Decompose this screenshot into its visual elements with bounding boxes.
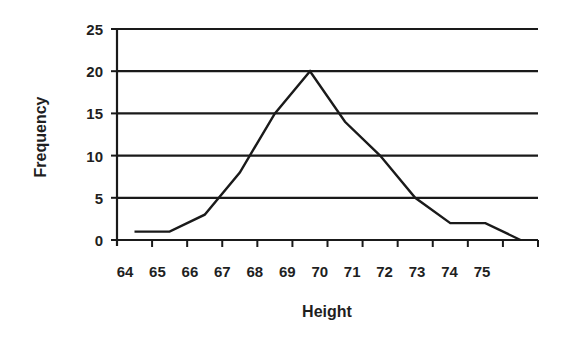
y-axis-title: Frequency: [32, 96, 49, 177]
horizontal-gridlines: [117, 29, 538, 198]
x-axis: 646566676869707172737475: [111, 240, 538, 280]
y-tick-label: 0: [95, 232, 103, 249]
x-tick-label: 70: [311, 263, 328, 280]
x-tick-label: 66: [182, 263, 199, 280]
x-axis-title: Height: [302, 303, 352, 320]
y-tick-label: 20: [86, 63, 103, 80]
x-tick-label: 68: [246, 263, 263, 280]
x-tick-label: 69: [279, 263, 296, 280]
frequency-line-chart: 0510152025 646566676869707172737475 Heig…: [0, 0, 567, 345]
y-tick-label: 25: [86, 21, 103, 38]
y-tick-label: 5: [95, 190, 103, 207]
y-axis: 0510152025: [86, 21, 117, 249]
y-tick-label: 10: [86, 148, 103, 165]
x-tick-label: 65: [149, 263, 166, 280]
x-tick-label: 72: [376, 263, 393, 280]
x-tick-label: 67: [214, 263, 231, 280]
x-tick-label: 75: [474, 263, 491, 280]
y-tick-label: 15: [86, 105, 103, 122]
x-tick-label: 74: [441, 263, 458, 280]
x-tick-label: 71: [344, 263, 361, 280]
x-tick-label: 64: [117, 263, 134, 280]
x-tick-label: 73: [409, 263, 426, 280]
